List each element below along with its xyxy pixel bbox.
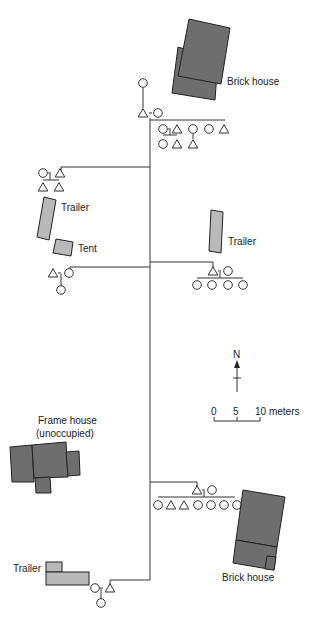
- trailer-left: [37, 197, 56, 240]
- kinship-bottom: [91, 584, 115, 608]
- main-path-line: [61, 118, 213, 586]
- kinship-lower-right: [154, 486, 242, 510]
- svg-text:10 meters: 10 meters: [255, 406, 299, 417]
- trailer-right-label: Trailer: [228, 236, 257, 247]
- kinship-middle-right: [193, 267, 248, 290]
- trailer-right: [209, 210, 223, 253]
- trailer-bottom: [46, 562, 89, 585]
- brick-house-bottom: [233, 490, 285, 570]
- frame-house-label-2: (unoccupied): [36, 428, 94, 439]
- trailer-bottom-label: Trailer: [13, 563, 42, 574]
- tent-label: Tent: [78, 243, 97, 254]
- svg-text:N: N: [233, 349, 240, 360]
- brick-house-top-label: Brick house: [227, 76, 280, 87]
- trailer-left-label: Trailer: [61, 202, 90, 213]
- settlement-map: Brick house Trailer Tent: [0, 0, 317, 621]
- kinship-middle-left: [48, 269, 73, 295]
- brick-house-bottom-label: Brick house: [222, 572, 275, 583]
- tent: [53, 239, 73, 256]
- scale-bar: 0 5 10 meters: [211, 406, 299, 421]
- north-arrow-icon: N: [233, 349, 241, 392]
- frame-house-label-1: Frame house: [38, 415, 97, 426]
- svg-text:5: 5: [233, 406, 239, 417]
- kinship-upper-left: [38, 169, 65, 191]
- svg-text:0: 0: [211, 406, 217, 417]
- brick-house-top: [172, 19, 230, 100]
- frame-house: [10, 442, 80, 493]
